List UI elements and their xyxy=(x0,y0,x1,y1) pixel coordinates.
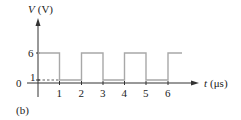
square-wave-chart: V(V) 6 1 0 1 2 3 4 5 6 t(μs) (b) xyxy=(0,0,241,120)
x-tick-label-3: 3 xyxy=(100,87,106,99)
x-tick-label-6: 6 xyxy=(165,87,171,99)
square-waveform xyxy=(38,53,182,80)
y-axis-label: V(V) xyxy=(28,3,53,16)
origin-label: 0 xyxy=(16,77,22,89)
x-axis-arrow-icon xyxy=(191,81,199,86)
x-tick-label-1: 1 xyxy=(57,87,63,99)
y-tick-label-1: 1 xyxy=(30,71,36,83)
y-tick-label-6: 6 xyxy=(28,47,34,59)
panel-label: (b) xyxy=(16,104,29,117)
y-axis-arrow-icon xyxy=(36,18,41,26)
x-tick-label-5: 5 xyxy=(143,87,149,99)
x-tick-label-2: 2 xyxy=(79,87,85,99)
x-tick-label-4: 4 xyxy=(122,87,128,99)
x-axis-label: t(μs) xyxy=(204,77,228,90)
